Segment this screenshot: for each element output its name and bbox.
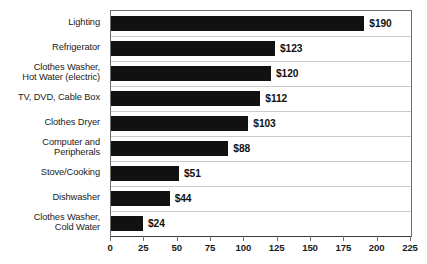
x-tick-label: 175 — [335, 242, 351, 253]
category-label: Refrigerator — [0, 42, 100, 53]
category-label-line: Computer and — [0, 137, 100, 148]
x-tick-mark — [377, 236, 378, 241]
bar-value-label: $103 — [253, 118, 275, 129]
category-label-line: Dishwasher — [0, 192, 100, 203]
bar-value-label: $112 — [265, 93, 287, 104]
x-tick-label: 100 — [235, 242, 251, 253]
x-tick-mark — [343, 236, 344, 241]
bar-value-label: $123 — [280, 43, 302, 54]
category-label: Clothes Washer,Hot Water (electric) — [0, 62, 100, 83]
bar-chart: LightingRefrigeratorClothes Washer,Hot W… — [0, 0, 427, 264]
x-tick-label: 150 — [302, 242, 318, 253]
category-label: TV, DVD, Cable Box — [0, 92, 100, 103]
category-label-line: Refrigerator — [0, 42, 100, 53]
bar — [111, 216, 143, 231]
bar — [111, 141, 228, 156]
x-tick-label: 225 — [402, 242, 418, 253]
bar-value-label: $51 — [184, 168, 201, 179]
x-axis: 0255075100125150175200225 — [110, 236, 410, 264]
x-tick-label: 75 — [205, 242, 215, 253]
bar — [111, 91, 260, 106]
row-separator — [111, 136, 411, 137]
bar — [111, 16, 364, 31]
category-label-line: Hot Water (electric) — [0, 72, 100, 83]
row-separator — [111, 111, 411, 112]
x-tick-mark — [243, 236, 244, 241]
bar-value-label: $120 — [276, 68, 298, 79]
category-label: Clothes Dryer — [0, 117, 100, 128]
category-label-line: Clothes Dryer — [0, 117, 100, 128]
category-label-line: Lighting — [0, 17, 100, 28]
bar-value-label: $190 — [369, 18, 391, 29]
x-tick-mark — [410, 236, 411, 241]
row-separator — [111, 86, 411, 87]
row-separator — [111, 61, 411, 62]
category-label-line: TV, DVD, Cable Box — [0, 92, 100, 103]
bar — [111, 66, 271, 81]
category-label: Dishwasher — [0, 192, 100, 203]
category-label: Clothes Washer,Cold Water — [0, 212, 100, 233]
category-label-line: Clothes Washer, — [0, 62, 100, 73]
bar — [111, 41, 275, 56]
x-tick-label: 125 — [269, 242, 285, 253]
x-tick-mark — [210, 236, 211, 241]
x-tick-label: 50 — [171, 242, 181, 253]
bar-value-label: $44 — [175, 193, 192, 204]
category-label-line: Stove/Cooking — [0, 167, 100, 178]
x-tick-mark — [277, 236, 278, 241]
category-label-line: Cold Water — [0, 222, 100, 233]
bar — [111, 166, 179, 181]
bar — [111, 191, 170, 206]
x-tick-mark — [143, 236, 144, 241]
x-tick-mark — [310, 236, 311, 241]
category-label: Stove/Cooking — [0, 167, 100, 178]
x-tick-mark — [110, 236, 111, 241]
x-tick-label: 25 — [138, 242, 148, 253]
x-tick-label: 200 — [369, 242, 385, 253]
bar — [111, 116, 248, 131]
plot-area: $190$123$120$112$103$88$51$44$24 — [110, 10, 412, 237]
x-tick-label: 0 — [107, 242, 112, 253]
bar-value-label: $24 — [148, 218, 165, 229]
category-axis-labels: LightingRefrigeratorClothes Washer,Hot W… — [0, 10, 104, 235]
category-label: Computer andPeripherals — [0, 137, 100, 158]
category-label-line: Clothes Washer, — [0, 212, 100, 223]
category-label-line: Peripherals — [0, 147, 100, 158]
row-separator — [111, 36, 411, 37]
row-separator — [111, 211, 411, 212]
x-tick-mark — [177, 236, 178, 241]
row-separator — [111, 186, 411, 187]
bar-value-label: $88 — [233, 143, 250, 154]
category-label: Lighting — [0, 17, 100, 28]
row-separator — [111, 161, 411, 162]
